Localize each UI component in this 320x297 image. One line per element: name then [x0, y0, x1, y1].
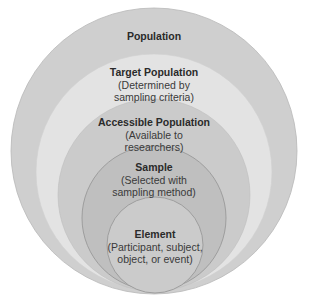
- accessible-population-subtitle-1: (Available to: [54, 129, 254, 142]
- accessible-population-title: Accessible Population: [54, 116, 254, 129]
- population-label: Population: [54, 30, 254, 43]
- accessible-population-label: Accessible Population (Available to rese…: [54, 116, 254, 154]
- element-subtitle-1: (Participant, subject,: [55, 241, 255, 254]
- target-population-subtitle-1: (Determined by: [54, 79, 254, 92]
- population-title: Population: [54, 30, 254, 43]
- element-title: Element: [55, 228, 255, 241]
- target-population-subtitle-2: sampling criteria): [54, 91, 254, 104]
- element-subtitle-2: object, or event): [55, 253, 255, 266]
- sample-subtitle-1: (Selected with: [54, 174, 254, 187]
- sample-title: Sample: [54, 161, 254, 174]
- sample-subtitle-2: sampling method): [54, 186, 254, 199]
- sample-label: Sample (Selected with sampling method): [54, 161, 254, 199]
- target-population-title: Target Population: [54, 66, 254, 79]
- target-population-label: Target Population (Determined by samplin…: [54, 66, 254, 104]
- element-label: Element (Participant, subject, object, o…: [55, 228, 255, 266]
- accessible-population-subtitle-2: researchers): [54, 141, 254, 154]
